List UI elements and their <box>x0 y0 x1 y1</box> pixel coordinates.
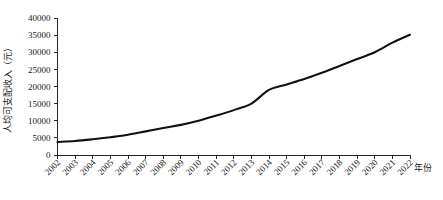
x-tick-label: 2004 <box>78 157 98 177</box>
y-tick-label: 25000 <box>28 65 51 75</box>
x-tick-label: 2014 <box>254 157 274 177</box>
y-tick-label: 40000 <box>28 13 51 23</box>
x-tick-label: 2022 <box>395 157 415 177</box>
x-axis-title: 年份 <box>414 162 432 173</box>
y-tick-label: 30000 <box>28 47 51 57</box>
x-tick-label: 2005 <box>95 157 115 177</box>
x-tick-label: 2013 <box>236 157 256 177</box>
income-trend-line <box>58 35 411 142</box>
x-tick-label: 2009 <box>166 157 186 177</box>
x-tick-label: 2003 <box>60 157 80 177</box>
x-tick-label: 2019 <box>342 157 362 177</box>
y-tick-label: 20000 <box>28 82 51 92</box>
x-tick-label: 2011 <box>201 157 221 177</box>
y-tick-label: 0 <box>46 150 51 160</box>
x-tick-label: 2016 <box>289 157 309 177</box>
y-tick-label: 35000 <box>28 30 51 40</box>
y-axis-tick-labels: 0500010000150002000025000300003500040000 <box>28 13 51 160</box>
y-tick-label: 15000 <box>28 99 51 109</box>
x-tick-label: 2020 <box>360 157 380 177</box>
x-tick-label: 2017 <box>307 157 327 177</box>
x-tick-label: 2007 <box>131 157 151 177</box>
x-tick-label: 2021 <box>377 157 397 177</box>
chart-container: 0500010000150002000025000300003500040000… <box>0 0 443 200</box>
x-tick-label: 2012 <box>219 157 239 177</box>
x-tick-label: 2006 <box>113 157 133 177</box>
y-tick-label: 10000 <box>28 116 51 126</box>
x-tick-label: 2015 <box>272 157 292 177</box>
chart-axes <box>58 18 411 155</box>
line-chart: 0500010000150002000025000300003500040000… <box>0 0 443 200</box>
x-tick-label: 2008 <box>148 157 168 177</box>
x-tick-label: 2010 <box>184 157 204 177</box>
x-axis-tick-labels: 2002200320042005200620072008200920102011… <box>43 157 415 177</box>
x-tick-label: 2002 <box>43 157 63 177</box>
y-axis-title: 人均可支配收入（元） <box>2 43 13 133</box>
x-tick-label: 2018 <box>325 157 345 177</box>
y-tick-label: 5000 <box>33 133 52 143</box>
